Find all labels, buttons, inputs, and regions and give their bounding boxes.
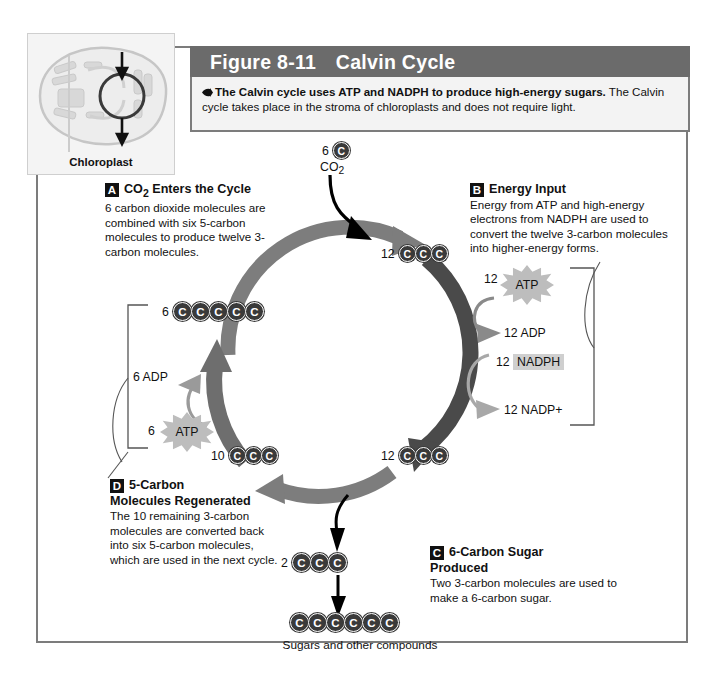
carbon-circle: C	[380, 613, 399, 632]
carbon-circle: C	[431, 447, 448, 464]
molecule-co2: 6 C	[322, 142, 349, 159]
section-d-letter: D	[110, 479, 124, 493]
figure-header-title: Figure 8-11 Calvin Cycle	[210, 51, 455, 74]
caption-bold: The Calvin cycle uses ATP and NADPH to p…	[215, 85, 606, 98]
section-b-body: Energy from ATP and high-energy electron…	[470, 198, 685, 256]
section-d-heading-line2: Molecules Regenerated	[110, 494, 285, 510]
section-a-heading-post: Enters the Cycle	[149, 182, 251, 196]
atp-right-count: 12	[484, 272, 498, 286]
chloroplast-illustration	[28, 34, 176, 176]
carbon-circle: C	[245, 447, 262, 464]
carbon-circle: C	[245, 302, 264, 321]
figure-caption-text: The Calvin cycle uses ATP and NADPH to p…	[202, 84, 676, 114]
sugar-output-arrow-2	[331, 575, 346, 617]
carbon-circle: C	[326, 613, 345, 632]
section-a-letter: A	[105, 183, 119, 197]
carbon-circle: C	[229, 447, 246, 464]
carbon-circle: C	[290, 613, 309, 632]
nadp-plus-right: 12 NADP+	[504, 403, 562, 417]
carbon-circle: C	[227, 302, 246, 321]
caption-pointer-icon	[202, 88, 213, 97]
chloroplast-label: Chloroplast	[28, 156, 174, 168]
carbon-circle: C	[308, 613, 327, 632]
section-d-heading: D5-Carbon	[110, 478, 285, 494]
section-c-heading: C6-Carbon Sugar	[430, 545, 630, 561]
carbon-circle: C	[173, 302, 192, 321]
molecule-6-five-carbon: 6 C C C C C	[162, 302, 263, 321]
section-a-body: 6 carbon dioxide molecules are combined …	[105, 201, 285, 259]
section-a-heading-pre: CO	[124, 182, 143, 196]
carbon-circle: C	[399, 245, 416, 262]
chloroplast-inset: Chloroplast	[27, 33, 175, 175]
molecule-count: 6	[162, 305, 169, 319]
figure-caption-strip: The Calvin cycle uses ATP and NADPH to p…	[190, 77, 690, 132]
molecule-12-three-carbon-bottom: 12 C C C	[381, 447, 447, 464]
atp-left-count: 6	[148, 424, 155, 438]
section-b: BEnergy Input Energy from ATP and high-e…	[470, 182, 685, 256]
nadph-right-count: 12	[496, 355, 510, 369]
energy-bracket-right	[570, 262, 600, 425]
molecule-count: 12	[381, 449, 395, 463]
cycle-arc-right	[408, 259, 470, 472]
carbon-circle: C	[344, 613, 363, 632]
section-c-heading-line2: Produced	[430, 561, 630, 577]
section-d-body: The 10 remaining 3-carbon molecules are …	[110, 509, 285, 567]
figure-header-band: Figure 8-11 Calvin Cycle	[190, 46, 690, 77]
carbon-circle: C	[209, 302, 228, 321]
adp-right-count: 12	[504, 326, 518, 340]
carbon-circle: C	[362, 613, 381, 632]
molecule-six-carbon-sugar: C C C C C C	[290, 613, 398, 632]
co2-label-sub: 2	[338, 165, 344, 176]
nadph-right-label: NADPH	[513, 354, 564, 370]
carbon-circle: C	[399, 447, 416, 464]
carbon-circle: C	[292, 553, 311, 572]
adp-left-count: 6	[133, 370, 140, 384]
molecule-12-three-carbon-top: 12 C C C	[381, 245, 447, 262]
carbon-circle: C	[415, 447, 432, 464]
section-b-heading: BEnergy Input	[470, 182, 685, 198]
section-c: C6-Carbon Sugar Produced Two 3-carbon mo…	[430, 545, 630, 605]
section-b-letter: B	[470, 183, 484, 197]
molecule-2-three-carbon-output: 2 C C C	[281, 553, 346, 572]
sugar-output-arrow-1	[330, 495, 348, 552]
section-a-heading: ACO2 Enters the Cycle	[105, 182, 285, 201]
carbon-circle: C	[415, 245, 432, 262]
section-d-heading-line1: 5-Carbon	[129, 478, 184, 492]
molecule-count: 2	[281, 556, 288, 570]
adp-left: 6 ADP	[133, 370, 168, 384]
figure-number: Figure 8-11	[210, 51, 316, 73]
section-a: ACO2 Enters the Cycle 6 carbon dioxide m…	[105, 182, 285, 259]
section-d-pointer	[108, 452, 128, 478]
atp-right-starburst: ATP	[500, 265, 554, 305]
nadp-plus-right-count: 12	[504, 403, 518, 417]
atp-left-starburst: ATP	[160, 412, 214, 452]
atp-left-label: ATP	[175, 425, 198, 439]
molecule-10-three-carbon: 10 C C C	[211, 447, 277, 464]
adp-left-label: ADP	[143, 370, 168, 384]
atp-to-adp-arrow	[474, 298, 501, 343]
carbon-circle: C	[431, 245, 448, 262]
section-b-heading-text: Energy Input	[489, 182, 566, 196]
co2-count: 6	[322, 144, 329, 158]
sugars-output-caption: Sugars and other compounds	[265, 638, 455, 652]
carbon-circle: C	[328, 553, 347, 572]
section-c-letter: C	[430, 546, 444, 560]
nadph-right: 12 NADPH	[496, 355, 564, 369]
molecule-count: 12	[381, 247, 395, 261]
carbon-circle: C	[333, 142, 350, 159]
adp-right: 12 ADP	[504, 326, 546, 340]
section-c-heading-line1: 6-Carbon Sugar	[449, 545, 543, 559]
carbon-circle: C	[261, 447, 278, 464]
carbon-circle: C	[310, 553, 329, 572]
section-c-body: Two 3-carbon molecules are used to make …	[430, 576, 630, 605]
section-d: D5-Carbon Molecules Regenerated The 10 r…	[110, 478, 285, 567]
carbon-circle: C	[191, 302, 210, 321]
nadp-plus-right-label: NADP+	[521, 403, 562, 417]
co2-label-text: CO	[320, 160, 338, 174]
adp-right-label: ADP	[520, 326, 545, 340]
co2-label: CO2	[320, 160, 344, 176]
figure-title: Calvin Cycle	[336, 51, 456, 73]
atp-right-label: ATP	[515, 278, 538, 292]
